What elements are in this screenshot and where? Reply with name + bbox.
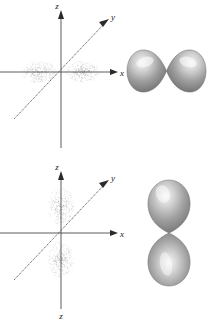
px-lobe-left <box>127 50 167 92</box>
px-lobe-right <box>167 50 207 92</box>
z-axis-label: z <box>54 1 59 11</box>
y-axis-label: y <box>110 173 115 183</box>
z-axis <box>58 10 64 148</box>
x-axis-label: x <box>119 229 124 239</box>
pz-orbital-panel: z y x z <box>0 161 207 322</box>
x-axis <box>0 69 118 75</box>
p-orbital-figure: z y x <box>0 0 207 322</box>
y-axis-label: y <box>110 12 115 22</box>
px-orbital-panel: z y x <box>0 0 207 161</box>
x-axis-label: x <box>119 68 124 78</box>
z-axis-label: z <box>54 162 59 172</box>
x-axis <box>0 230 118 236</box>
y-axis <box>14 180 109 280</box>
px-axes-diagram: z y x <box>0 0 130 161</box>
z-axis <box>58 171 64 309</box>
pz-lobe-top <box>148 180 190 233</box>
boundary-surface-px <box>126 40 207 102</box>
z-axis-label-bottom: z <box>58 311 63 321</box>
pz-axes-diagram: z y x z <box>0 161 130 322</box>
boundary-surface-pz <box>136 174 202 294</box>
